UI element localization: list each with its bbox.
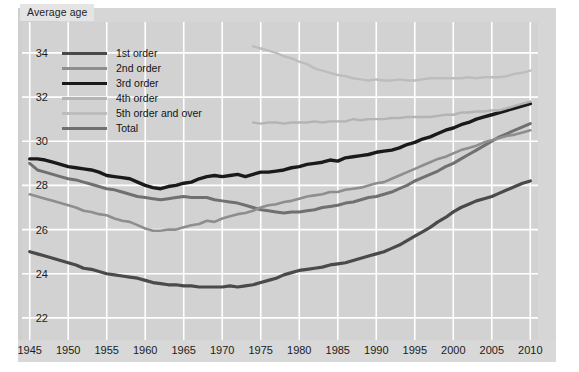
x-tick-label: 2000 (441, 344, 465, 356)
x-tick-label: 1995 (403, 344, 427, 356)
x-tick-label: 2005 (480, 344, 504, 356)
axis-title: Average age (20, 4, 94, 21)
x-tick-label: 1985 (326, 344, 350, 356)
figure-root: 34323028262422 Average age 1st order2nd … (0, 0, 579, 372)
legend-item: 1st order (62, 46, 202, 61)
x-tick-label: 1965 (171, 344, 195, 356)
series-line (253, 102, 530, 124)
x-tick-label: 1975 (248, 344, 272, 356)
legend-swatch (62, 127, 107, 130)
y-tick-label: 22 (22, 312, 48, 324)
legend-swatch (62, 82, 107, 85)
legend-item: 2nd order (62, 61, 202, 76)
legend-swatch (62, 112, 107, 114)
chart-legend: 1st order2nd order3rd order4th order5th … (62, 46, 202, 136)
x-tick-label: 1980 (287, 344, 311, 356)
figure-undertext (22, 363, 24, 369)
x-axis-strip: 1945195019551960196519701975198019851990… (18, 340, 556, 362)
y-tick-label: 24 (22, 268, 48, 280)
x-tick-label: 1950 (56, 344, 80, 356)
legend-label: 2nd order (116, 63, 161, 74)
x-tick-label: 1990 (364, 344, 388, 356)
legend-item: 4th order (62, 91, 202, 106)
legend-label: 4th order (116, 93, 158, 104)
y-tick-label: 26 (22, 224, 48, 236)
x-tick-label: 1955 (94, 344, 118, 356)
series-line (30, 124, 531, 213)
x-tick-label: 1945 (17, 344, 41, 356)
legend-item: Total (62, 121, 202, 136)
legend-swatch (62, 52, 107, 55)
x-tick-label: 1970 (210, 344, 234, 356)
legend-label: 1st order (116, 48, 157, 59)
x-tick-label: 1960 (133, 344, 157, 356)
y-tick-label: 30 (22, 135, 48, 147)
series-line (30, 181, 531, 287)
legend-label: 3rd order (116, 78, 159, 89)
series-line (30, 130, 531, 230)
legend-label: Total (116, 123, 138, 134)
legend-swatch (62, 67, 107, 70)
legend-item: 3rd order (62, 76, 202, 91)
legend-swatch (62, 97, 107, 99)
y-tick-label: 32 (22, 91, 48, 103)
series-line (253, 46, 530, 80)
legend-label: 5th order and over (116, 108, 202, 119)
y-tick-label: 34 (22, 47, 48, 59)
x-tick-label: 2010 (518, 344, 542, 356)
legend-item: 5th order and over (62, 106, 202, 121)
y-tick-label: 28 (22, 179, 48, 191)
